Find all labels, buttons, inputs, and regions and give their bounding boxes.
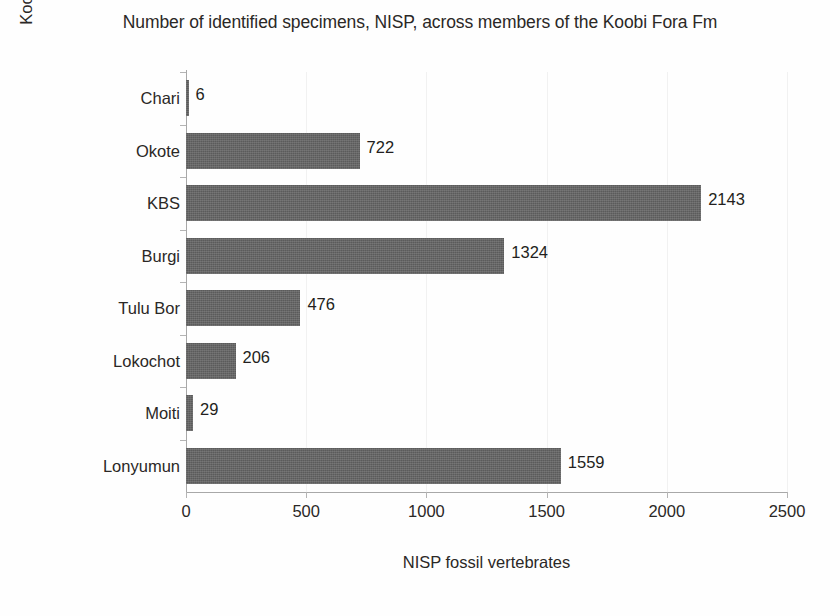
chart-title: Number of identified specimens, NISP, ac… <box>0 12 840 33</box>
y-axis-category-label-chari: Chari <box>20 90 180 107</box>
x-axis-tick-500 <box>306 492 307 498</box>
bar-okote[interactable] <box>186 133 360 169</box>
y-axis-category-label-burgi: Burgi <box>20 248 180 265</box>
bar-row: 6 <box>186 72 787 125</box>
y-axis-category-label-lokochot: Lokochot <box>20 353 180 370</box>
bar-row: 476 <box>186 282 787 335</box>
y-axis-tick <box>180 72 186 73</box>
y-axis-tick <box>180 440 186 441</box>
bar-row: 206 <box>186 335 787 388</box>
x-axis-title: NISP fossil vertebrates <box>186 553 787 572</box>
bar-value-label: 1324 <box>511 244 548 261</box>
x-axis-tick-label-500: 500 <box>292 503 320 520</box>
bar-value-label: 29 <box>200 401 218 418</box>
y-axis-category-label-moiti: Moiti <box>20 405 180 422</box>
x-axis-tick-label-2000: 2000 <box>648 503 685 520</box>
bar-row: 2143 <box>186 177 787 230</box>
bar-row: 29 <box>186 387 787 440</box>
y-axis-tick <box>180 387 186 388</box>
x-axis-tick-1500 <box>547 492 548 498</box>
bar-burgi[interactable] <box>186 238 504 274</box>
x-axis-tick-label-1500: 1500 <box>528 503 565 520</box>
y-axis-category-label-lonyumun: Lonyumun <box>20 458 180 475</box>
bar-row: 1559 <box>186 440 787 493</box>
bar-lokochot[interactable] <box>186 343 236 379</box>
x-axis-tick-label-2500: 2500 <box>769 503 806 520</box>
bar-tulu-bor[interactable] <box>186 290 300 326</box>
bar-value-label: 722 <box>367 139 395 156</box>
bar-chari[interactable] <box>186 80 189 116</box>
plot-area: 672221431324476206291559 <box>186 72 787 492</box>
y-axis-tick <box>180 177 186 178</box>
y-axis-category-labels: ChariOkoteKBSBurgiTulu BorLokochotMoitiL… <box>18 72 180 492</box>
x-axis-tick-0 <box>186 492 187 498</box>
bar-kbs[interactable] <box>186 185 701 221</box>
bar-lonyumun[interactable] <box>186 448 561 484</box>
bar-value-label: 1559 <box>568 454 605 471</box>
y-axis-tick <box>180 335 186 336</box>
gridline-2500 <box>787 72 788 492</box>
y-axis-tick <box>180 125 186 126</box>
bar-value-label: 6 <box>196 86 205 103</box>
x-axis-tick-1000 <box>426 492 427 498</box>
bar-chart-figure: Number of identified specimens, NISP, ac… <box>0 0 840 616</box>
y-axis-tick <box>180 282 186 283</box>
bar-row: 1324 <box>186 230 787 283</box>
bar-value-label: 2143 <box>708 191 745 208</box>
bar-value-label: 206 <box>243 349 271 366</box>
bar-moiti[interactable] <box>186 395 193 431</box>
y-axis-category-label-tulu-bor: Tulu Bor <box>20 300 180 317</box>
y-axis-category-label-kbs: KBS <box>20 195 180 212</box>
x-axis-tick-labels: 05001000150020002500 <box>186 503 787 531</box>
x-axis-tick-2000 <box>667 492 668 498</box>
y-axis-category-label-okote: Okote <box>20 143 180 160</box>
x-axis-tick-2500 <box>787 492 788 498</box>
x-axis-tick-label-0: 0 <box>181 503 190 520</box>
bar-row: 722 <box>186 125 787 178</box>
y-axis-tick <box>180 230 186 231</box>
x-axis-tick-label-1000: 1000 <box>408 503 445 520</box>
x-axis-line <box>186 492 788 493</box>
bar-value-label: 476 <box>307 296 335 313</box>
